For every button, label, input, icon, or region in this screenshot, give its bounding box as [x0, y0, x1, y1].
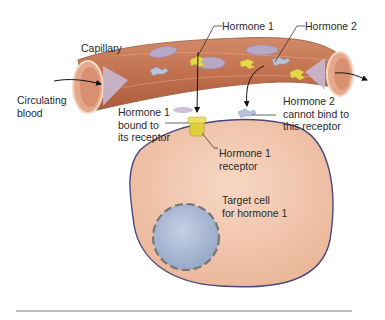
label-hormone1-bound: Hormone 1 bound to its receptor — [118, 106, 170, 144]
nucleus — [153, 204, 219, 270]
label-hormone1: Hormone 1 — [222, 20, 274, 33]
label-circulating-blood: Circulating blood — [17, 94, 67, 119]
label-hormone2-cannot-bind: Hormone 2 cannot bind to this receptor — [283, 95, 349, 133]
hormone1-receptor — [188, 117, 206, 136]
label-capillary: Capillary — [81, 42, 122, 55]
label-hormone2: Hormone 2 — [305, 20, 357, 33]
hormone2-unbound — [238, 109, 256, 118]
diagram-artwork — [0, 0, 385, 320]
label-hormone1-receptor: Hormone 1 receptor — [219, 147, 271, 172]
label-target-cell: Target cell for hormone 1 — [222, 194, 287, 219]
hormone-receptor-diagram: Capillary Circulating blood Hormone 1 Ho… — [0, 0, 385, 320]
